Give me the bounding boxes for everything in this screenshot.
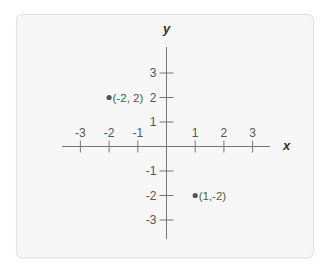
y-tick-label: 3 — [150, 66, 157, 80]
x-tick-label: 1 — [192, 126, 199, 140]
x-axis-label: x — [282, 138, 291, 153]
y-axis-label: y — [162, 21, 171, 36]
x-tick-label: 2 — [221, 126, 228, 140]
axes: x y — [62, 21, 291, 239]
y-tick: -2 — [146, 189, 174, 203]
y-tick-label: 2 — [150, 91, 157, 105]
point-marker-icon — [193, 193, 198, 198]
point-label: (-2, 2) — [113, 92, 144, 104]
coordinate-plane: x y -3-2-1123321-1-2-3 (-2, 2)(1,-2) — [0, 0, 331, 270]
y-tick: -1 — [146, 164, 174, 178]
data-point: (1,-2) — [193, 190, 227, 202]
y-tick-label: 1 — [150, 115, 157, 129]
point-label: (1,-2) — [199, 190, 227, 202]
point-marker-icon — [107, 95, 112, 100]
x-tick-label: -2 — [104, 126, 115, 140]
y-tick: 1 — [150, 115, 174, 129]
y-tick-label: -2 — [146, 189, 157, 203]
x-tick: -1 — [132, 126, 143, 153]
data-point: (-2, 2) — [107, 92, 144, 104]
y-tick-label: -1 — [146, 164, 157, 178]
x-tick: 3 — [249, 126, 256, 153]
y-tick: 3 — [150, 66, 174, 80]
x-tick: -3 — [75, 126, 86, 153]
x-tick-label: -3 — [75, 126, 86, 140]
x-tick-label: -1 — [132, 126, 143, 140]
x-tick: 2 — [221, 126, 228, 153]
x-tick: 1 — [192, 126, 199, 153]
y-tick-label: -3 — [146, 213, 157, 227]
y-tick: -3 — [146, 213, 174, 227]
x-tick-label: 3 — [249, 126, 256, 140]
x-tick: -2 — [104, 126, 115, 153]
y-tick: 2 — [150, 91, 174, 105]
